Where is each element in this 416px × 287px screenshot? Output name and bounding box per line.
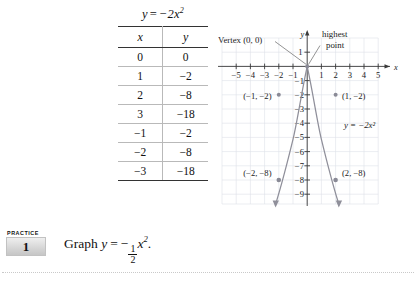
x-tick-label: 2 [333, 70, 337, 80]
y-tick-label: 1 [298, 47, 302, 57]
prompt-prefix: Graph [64, 236, 98, 251]
caption-exponent: 2 [180, 6, 184, 15]
cell-x: −2 [118, 143, 163, 162]
vertex-annotation: Vertex (0, 0) [218, 35, 262, 45]
values-table-body: 0 0 1 −2 2 −8 3 −18 −1 −2 [118, 48, 208, 181]
practice-label: PRACTICE [6, 230, 46, 237]
y-tick-label: −9 [295, 189, 304, 199]
cell-y: −2 [163, 124, 208, 143]
highest-point-annotation-line2: point [326, 40, 345, 50]
caption-equals: = [148, 7, 159, 21]
y-axis-label: y [300, 30, 305, 39]
practice-block: PRACTICE 1 Graph y=−12x2. [0, 226, 416, 287]
data-point [277, 93, 281, 97]
x-tick-label: −5 [232, 70, 241, 80]
column-header-y: y [163, 27, 208, 48]
curve-equation-label: y = −2x² [343, 120, 375, 130]
table-row: 1 −2 [118, 67, 208, 86]
point-label-pos1: (1, −2) [342, 91, 366, 101]
table-header-row: x y [118, 27, 208, 48]
column-header-x: x [118, 27, 163, 48]
practice-prompt: Graph y=−12x2. [64, 234, 151, 265]
x-tick-label: 3 [348, 70, 352, 80]
values-table-head: x y [118, 27, 208, 48]
x-tick-label: −2 [274, 70, 283, 80]
cell-x: 2 [118, 86, 163, 105]
prompt-equals: = [107, 236, 121, 251]
x-tick-label: 4 [362, 70, 367, 80]
values-table: x y 0 0 1 −2 2 −8 3 −18 [118, 26, 208, 181]
parabola-graph: x y −5 −4 −3 −2 −1 1 2 3 4 5 1 −1 −2 −3 [218, 28, 408, 210]
y-tick-label: −8 [295, 175, 304, 185]
cell-x: 0 [118, 48, 163, 67]
table-row: −3 −18 [118, 162, 208, 181]
point-label-neg1: (−1, −2) [243, 91, 271, 101]
prompt-period: . [148, 236, 151, 251]
prompt-minus-sign: − [121, 236, 129, 251]
cell-x: 1 [118, 67, 163, 86]
cell-x: −3 [118, 162, 163, 181]
cell-y: −8 [163, 86, 208, 105]
cell-y: −2 [163, 67, 208, 86]
highest-point-annotation-line1: highest [322, 29, 348, 39]
practice-number: 1 [6, 237, 46, 256]
data-point [277, 178, 282, 183]
x-axis-label: x [393, 63, 398, 72]
y-tick-label: −6 [295, 147, 305, 157]
table-equation-caption: y=−2x2 [118, 6, 208, 26]
practice-badge: PRACTICE 1 [6, 230, 46, 256]
x-tick-label: 1 [319, 70, 323, 80]
x-tick-label: −3 [260, 70, 269, 80]
table-row: −2 −8 [118, 143, 208, 162]
caption-rhs: −2x [159, 7, 180, 21]
cell-y: −18 [163, 105, 208, 124]
values-table-container: y=−2x2 x y 0 0 1 −2 2 −8 [118, 6, 208, 181]
cell-y: −8 [163, 143, 208, 162]
table-row: 3 −18 [118, 105, 208, 124]
section-divider [2, 272, 414, 273]
x-tick-label: −4 [246, 70, 256, 80]
x-tick-label: 5 [376, 70, 380, 80]
y-tick-label: −7 [295, 161, 305, 171]
table-row: 2 −8 [118, 86, 208, 105]
vertex-point [305, 64, 309, 68]
y-tick-label: −1 [295, 76, 304, 86]
cell-y: 0 [163, 48, 208, 67]
fraction-denominator: 2 [128, 254, 137, 265]
table-row: 0 0 [118, 48, 208, 67]
cell-x: 3 [118, 105, 163, 124]
x-axis [218, 64, 390, 70]
cell-x: −1 [118, 124, 163, 143]
example-block: y=−2x2 x y 0 0 1 −2 2 −8 [0, 0, 416, 215]
graph-svg: x y −5 −4 −3 −2 −1 1 2 3 4 5 1 −1 −2 −3 [218, 28, 408, 210]
point-label-pos2: (2, −8) [342, 168, 366, 178]
data-point [334, 93, 338, 97]
caption-lhs: y [142, 7, 148, 21]
y-tick-label: −5 [295, 132, 304, 142]
table-row: −1 −2 [118, 124, 208, 143]
point-label-neg2: (−2, −8) [243, 168, 271, 178]
y-axis [304, 30, 310, 206]
data-point [333, 178, 338, 183]
cell-y: −18 [163, 162, 208, 181]
